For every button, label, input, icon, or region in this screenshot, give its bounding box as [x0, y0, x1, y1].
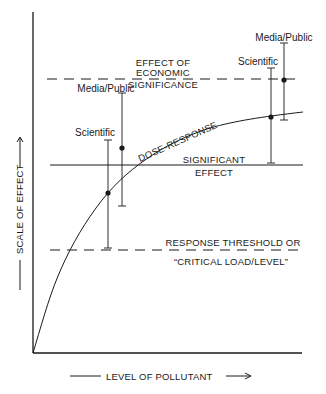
threshold-label-line2: “CRITICAL LOAD/LEVEL” — [174, 256, 288, 267]
y-axis-label: SCALE OF EFFECT — [14, 164, 25, 254]
left-media-public-error-bar: Media/Public — [77, 83, 134, 206]
threshold-label-line1: RESPONSE THRESHOLD OR — [166, 237, 301, 248]
significant-label-line2: EFFECT — [195, 167, 233, 178]
dose-response-diagram: SCALE OF EFFECT LEVEL OF POLLUTANT EFFEC… — [0, 0, 326, 394]
left-scientific-point — [105, 190, 110, 195]
y-axis-label-group: SCALE OF EFFECT — [14, 137, 25, 290]
right-scientific-point — [268, 114, 273, 119]
significant-effect-line-group: SIGNIFICANT EFFECT — [50, 154, 303, 178]
left-scientific-label: Scientific — [75, 127, 115, 138]
right-media-public-label: Media/Public — [255, 32, 312, 43]
right-scientific-error-bar: Scientific — [238, 56, 278, 163]
right-error-bars: Scientific Media/Public — [238, 32, 313, 163]
left-media-public-label: Media/Public — [77, 83, 134, 94]
economic-label-line2: ECONOMIC — [136, 67, 190, 78]
x-axis-label: LEVEL OF POLLUTANT — [106, 371, 213, 382]
x-axis-label-group: LEVEL OF POLLUTANT — [70, 371, 251, 382]
left-media-public-point — [119, 145, 124, 150]
significant-label-line1: SIGNIFICANT — [183, 154, 245, 165]
dose-response-curve-group: DOSE-RESPONSE — [33, 112, 303, 353]
right-media-public-error-bar: Media/Public — [255, 32, 312, 120]
response-threshold-line-group: RESPONSE THRESHOLD OR “CRITICAL LOAD/LEV… — [50, 237, 300, 267]
economic-label-line3: SIGNIFICANCE — [128, 79, 198, 90]
right-scientific-label: Scientific — [238, 56, 278, 67]
right-media-public-point — [281, 77, 286, 82]
